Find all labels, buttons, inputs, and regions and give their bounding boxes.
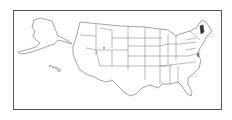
- us-map: [0, 0, 232, 120]
- contiguous-us-outline: [73, 20, 212, 96]
- state-delaware[interactable]: [197, 53, 199, 57]
- state-vermont[interactable]: [200, 25, 204, 34]
- state-alaska[interactable]: [18, 18, 72, 54]
- map-marker: [103, 47, 105, 49]
- state-hawaii[interactable]: [49, 65, 60, 71]
